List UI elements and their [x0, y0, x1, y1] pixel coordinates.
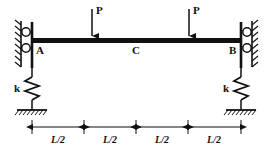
beam-label-c: C: [132, 44, 140, 56]
beam-diagram: A C B P P k k L/2 L/2 L/2 L/2: [0, 0, 272, 148]
dim-label-1: L/2: [50, 134, 65, 145]
spring-right-coil: [234, 77, 248, 100]
beam-member: [32, 38, 242, 43]
roller-support-left: [15, 20, 32, 68]
load-label-1: P: [96, 4, 103, 16]
wall-hatch-right: [252, 20, 258, 67]
roller-support-right: [241, 20, 258, 68]
spring-left-coil: [25, 77, 39, 100]
roller-left-lower: [22, 44, 30, 52]
dim-label-2: L/2: [102, 134, 117, 145]
dim-label-4: L/2: [206, 134, 221, 145]
load-label-2: P: [193, 4, 200, 16]
roller-right-upper: [243, 28, 251, 36]
beam-label-a: A: [36, 44, 44, 56]
beam-label-b: B: [229, 44, 237, 56]
wall-hatch-left: [15, 20, 21, 67]
roller-left-upper: [22, 28, 30, 36]
dim-label-3: L/2: [154, 134, 169, 145]
beam-diagram-canvas: A C B P P k k L/2 L/2 L/2 L/2: [0, 0, 272, 148]
dimension-row: [32, 120, 241, 134]
spring-label-left: k: [14, 82, 21, 94]
spring-label-right: k: [223, 82, 230, 94]
roller-right-lower: [243, 44, 251, 52]
